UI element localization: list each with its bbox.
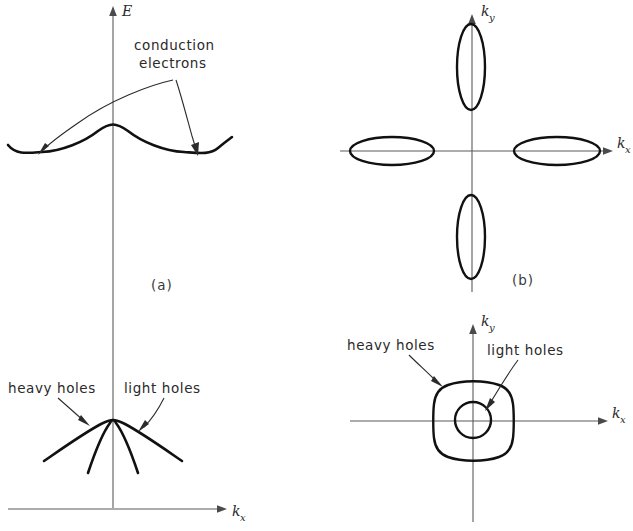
heavy-holes-arrow-a xyxy=(58,398,90,426)
panel-c-ky-axis-subscript: y xyxy=(488,322,495,333)
conduction-electrons-arrow-right xyxy=(176,80,199,156)
panel-b-ky-axis-subscript: y xyxy=(488,12,495,23)
panel-a-tag: (a) xyxy=(151,277,173,293)
panel-b-kx-axis xyxy=(340,147,613,155)
light-holes-label-a: light holes xyxy=(124,380,201,396)
pocket-bottom xyxy=(457,195,485,279)
panel-b-kx-axis-subscript: x xyxy=(625,144,631,155)
panel-a-kx-axis-subscript: x xyxy=(240,512,246,523)
conduction-electrons-label-line2: electrons xyxy=(139,55,207,71)
conduction-electrons-label-line1: conduction xyxy=(134,37,215,53)
light-holes-arrow-a xyxy=(138,398,164,432)
panel-a-energy-axis-label: E xyxy=(121,3,132,19)
panel-b-tag: (b) xyxy=(512,272,534,288)
panel-b: k y k x (b) xyxy=(340,3,631,292)
band-structure-figure: conduction electrons heavy holes light h… xyxy=(0,0,633,531)
pocket-top xyxy=(457,24,485,110)
panel-c-kx-axis xyxy=(350,417,608,425)
panel-a-energy-axis xyxy=(109,6,117,508)
panel-a-kx-axis xyxy=(8,505,227,513)
figure-canvas: conduction electrons heavy holes light h… xyxy=(0,0,633,531)
panel-c-kx-axis-subscript: x xyxy=(620,414,626,425)
light-holes-label-c: light holes xyxy=(487,342,564,358)
heavy-holes-label-a: heavy holes xyxy=(8,380,96,396)
panel-a: conduction electrons heavy holes light h… xyxy=(8,3,246,523)
panel-c: heavy holes light holes k y k x xyxy=(347,313,626,522)
panel-b-ky-axis xyxy=(468,14,476,292)
panel-c-ky-axis xyxy=(469,324,477,522)
heavy-holes-label-c: heavy holes xyxy=(347,337,435,353)
heavy-holes-arrow-c xyxy=(409,355,443,387)
